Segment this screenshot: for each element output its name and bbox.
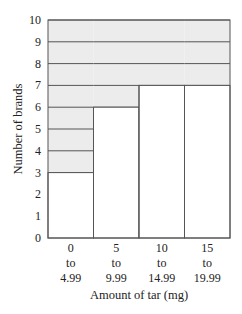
y-tick-label: 4 — [35, 144, 41, 158]
x-tick-label: 9.99 — [106, 271, 127, 285]
x-tick-label: 5 — [113, 241, 119, 255]
bar — [139, 85, 185, 238]
x-tick-label: to — [66, 256, 75, 270]
x-tick-label: to — [157, 256, 166, 270]
bar-chart: 0123456789100to4.995to9.9910to14.9915to1… — [0, 0, 242, 314]
x-tick-label: 14.99 — [148, 271, 175, 285]
y-tick-label: 8 — [35, 57, 41, 71]
x-tick-label: to — [203, 256, 212, 270]
y-tick-label: 2 — [35, 187, 41, 201]
y-tick-label: 7 — [35, 78, 41, 92]
y-tick-label: 10 — [29, 13, 41, 27]
y-axis-label: Number of brands — [11, 83, 25, 174]
shaded-region — [139, 20, 185, 85]
y-tick-label: 9 — [35, 35, 41, 49]
x-tick-label: 10 — [156, 241, 168, 255]
y-tick-label: 3 — [35, 166, 41, 180]
y-tick-label: 0 — [35, 231, 41, 245]
x-tick-label: 15 — [201, 241, 213, 255]
bar — [185, 85, 231, 238]
x-axis-label: Amount of tar (mg) — [90, 288, 188, 302]
x-tick-label: 4.99 — [60, 271, 81, 285]
x-tick-label: to — [112, 256, 121, 270]
y-tick-label: 6 — [35, 100, 41, 114]
shaded-region — [48, 20, 94, 173]
x-tick-label: 0 — [68, 241, 74, 255]
x-tick-label: 19.99 — [194, 271, 221, 285]
y-tick-label: 5 — [35, 122, 41, 136]
bar — [94, 107, 140, 238]
shaded-region — [185, 20, 231, 85]
bar — [48, 173, 94, 238]
y-tick-label: 1 — [35, 209, 41, 223]
